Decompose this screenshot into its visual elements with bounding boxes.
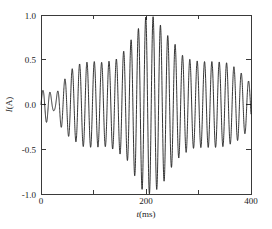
x-tick-label-400: 400 <box>244 196 258 206</box>
y-tick-label-1.0: 1.0 <box>25 11 37 21</box>
y-tick-label--1.0: -1.0 <box>22 190 37 200</box>
y-axis-ticks <box>41 15 251 194</box>
waveform-curve <box>41 17 251 194</box>
y-axis-title: I(A) <box>4 97 14 114</box>
y-tick-label-0.0: 0.0 <box>25 100 37 110</box>
chart-plot: 1.0 0.5 0.0 -0.5 -1.0 0 200 400 t(ms) I(… <box>0 0 272 229</box>
y-tick-label-0.5: 0.5 <box>25 55 37 65</box>
plot-frame <box>41 15 251 194</box>
y-axis-title-unit: (A) <box>4 97 14 110</box>
x-axis-title-unit: (ms) <box>139 209 156 219</box>
x-tick-label-200: 200 <box>139 196 153 206</box>
y-tick-label--0.5: -0.5 <box>22 145 37 155</box>
x-tick-labels: 0 200 400 <box>39 196 259 206</box>
x-axis-ticks <box>41 15 251 194</box>
figure-container: 1.0 0.5 0.0 -0.5 -1.0 0 200 400 t(ms) I(… <box>0 0 272 229</box>
x-tick-label-0: 0 <box>39 196 44 206</box>
x-axis-title: t(ms) <box>136 209 155 219</box>
y-tick-labels: 1.0 0.5 0.0 -0.5 -1.0 <box>22 11 37 200</box>
